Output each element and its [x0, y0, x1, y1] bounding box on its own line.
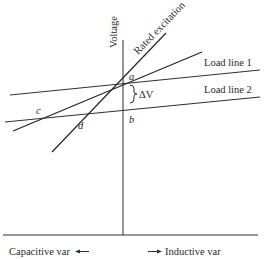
load-line-1-label: Load line 1: [204, 57, 252, 68]
rated-excitation-label: Rated excitation: [132, 0, 188, 56]
voltage-var-diagram: Voltage Rated excitation Load line 1 Loa…: [0, 0, 269, 259]
voltage-axis-label: Voltage: [108, 16, 119, 48]
point-a-label: a: [129, 71, 134, 82]
arrow-left-icon: [75, 250, 80, 254]
delta-v-brace-icon: [130, 85, 137, 103]
load-line-2-label: Load line 2: [204, 84, 252, 95]
point-c-label: c: [36, 105, 41, 116]
capacitive-var-label: Capacitive var: [9, 246, 70, 257]
inductive-var-label: Inductive var: [165, 246, 221, 257]
point-d-label: d: [78, 120, 84, 131]
delta-v-label: ΔV: [139, 89, 154, 100]
arrow-right-icon: [157, 250, 162, 254]
point-b-label: b: [129, 114, 134, 125]
